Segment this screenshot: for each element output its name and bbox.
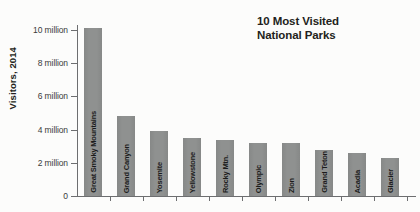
y-tick-label: 2 million [0, 158, 68, 168]
x-axis-line [77, 196, 416, 197]
x-tick-mark [176, 197, 177, 201]
bar-rocky-mtn: Rocky Mtn. [216, 140, 234, 196]
bar-label: Rocky Mtn. [221, 155, 230, 193]
x-tick-mark [242, 197, 243, 201]
x-tick-mark [209, 197, 210, 201]
y-tick-mark [71, 30, 78, 31]
y-tick-mark [71, 196, 78, 197]
bar-olympic: Olympic [249, 143, 267, 196]
x-tick-mark [275, 197, 276, 201]
bar-label: Grand Canyon [122, 144, 131, 193]
bar-label: Zion [287, 178, 296, 193]
y-tick-label: 6 million [0, 91, 68, 101]
y-tick-label: 0 [0, 191, 68, 201]
bar-yellowstone: Yellowstone [183, 138, 201, 196]
bar-glacier: Glacier [381, 158, 399, 196]
bar-label: Glacier [386, 169, 395, 193]
chart-title: 10 Most Visited National Parks [257, 14, 339, 42]
y-tick-label: 8 million [0, 58, 68, 68]
x-tick-mark [374, 197, 375, 201]
y-tick-mark [71, 63, 78, 64]
bar-label: Yosemite [155, 162, 164, 193]
bar-zion: Zion [282, 143, 300, 196]
bar-great-smoky-mountains: Great Smoky Mountains [84, 28, 102, 196]
y-tick-label: 10 million [0, 25, 68, 35]
x-tick-mark [143, 197, 144, 201]
bar-grand-canyon: Grand Canyon [117, 116, 135, 196]
bar-label: Yellowstone [188, 152, 197, 193]
y-tick-mark [71, 130, 78, 131]
y-tick-mark [71, 96, 78, 97]
y-axis-line [77, 25, 78, 197]
bar-grand-teton: Grand Teton [315, 150, 333, 196]
x-tick-mark [341, 197, 342, 201]
x-tick-mark [407, 197, 408, 201]
x-tick-mark [110, 197, 111, 201]
y-tick-mark [71, 163, 78, 164]
y-tick-label: 4 million [0, 125, 68, 135]
bar-label: Grand Teton [320, 151, 329, 193]
x-tick-mark [308, 197, 309, 201]
bar-acadia: Acadia [348, 153, 366, 196]
bar-label: Acadia [353, 170, 362, 193]
bar-yosemite: Yosemite [150, 131, 168, 196]
bar-label: Great Smoky Mountains [89, 111, 98, 193]
bar-label: Olympic [254, 165, 263, 193]
chart-title-line2: National Parks [257, 28, 339, 42]
chart-title-line1: 10 Most Visited [257, 14, 339, 28]
bar-chart: Visitors, 2014 10 Most Visited National … [0, 0, 420, 212]
